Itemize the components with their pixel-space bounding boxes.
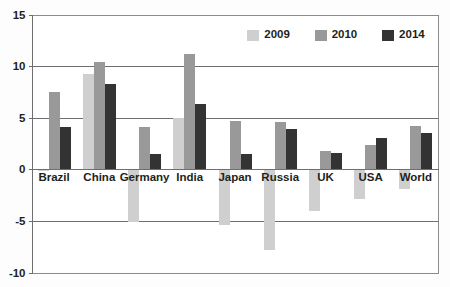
- category-label-russia: Russia: [261, 171, 299, 183]
- bar-japan-2010: [230, 121, 241, 170]
- bar-germany-2014: [150, 154, 161, 169]
- y-tick-label--5: -5: [15, 215, 26, 227]
- bar-russia-2010: [275, 122, 286, 169]
- legend-entry-2009[interactable]: 2009: [247, 28, 290, 40]
- chart-canvas: -10-5051015 BrazilChinaGermanyIndiaJapan…: [0, 0, 450, 287]
- bar-chart-figure: -10-5051015 BrazilChinaGermanyIndiaJapan…: [0, 0, 450, 287]
- y-tick-label-0: 0: [19, 163, 25, 175]
- y-tick-label-15: 15: [13, 9, 26, 21]
- bar-japan-2014: [241, 154, 252, 169]
- bar-india-2009: [173, 118, 184, 170]
- chart-legend: 200920102014: [247, 28, 425, 40]
- bar-usa-2010: [365, 145, 376, 170]
- bar-uk-2014: [331, 153, 342, 170]
- bar-world-2010: [410, 126, 421, 169]
- legend-swatch-2010: [315, 30, 327, 41]
- legend-label-2010: 2010: [332, 28, 358, 40]
- y-tick-label-5: 5: [19, 112, 26, 124]
- bar-china-2010: [94, 62, 105, 169]
- legend-label-2014: 2014: [399, 28, 425, 40]
- y-tick-label--10: -10: [9, 267, 26, 279]
- bar-germany-2010: [139, 127, 150, 169]
- bar-uk-2010: [320, 151, 331, 170]
- category-label-world: World: [400, 171, 432, 183]
- bar-india-2010: [184, 54, 195, 170]
- category-label-brazil: Brazil: [38, 171, 69, 183]
- legend-swatch-2009: [247, 30, 259, 41]
- category-label-india: India: [176, 171, 203, 183]
- bar-world-2014: [421, 133, 432, 169]
- bar-china-2009: [83, 74, 94, 169]
- legend-entry-2014[interactable]: 2014: [382, 28, 425, 40]
- category-label-germany: Germany: [120, 171, 170, 183]
- category-label-japan: Japan: [218, 171, 251, 183]
- bar-usa-2014: [376, 138, 387, 169]
- category-label-china: China: [83, 171, 116, 183]
- legend-label-2009: 2009: [264, 28, 290, 40]
- category-labels: BrazilChinaGermanyIndiaJapanRussiaUKUSAW…: [38, 171, 432, 183]
- bar-russia-2014: [286, 129, 297, 169]
- y-tick-label-10: 10: [13, 60, 26, 72]
- bar-india-2014: [195, 104, 206, 169]
- category-label-usa: USA: [359, 171, 383, 183]
- legend-entry-2010[interactable]: 2010: [315, 28, 358, 40]
- category-label-uk: UK: [317, 171, 334, 183]
- legend-swatch-2014: [382, 30, 394, 41]
- bar-brazil-2010: [49, 92, 60, 169]
- y-axis: [29, 16, 33, 274]
- bar-brazil-2014: [60, 127, 71, 169]
- bar-china-2014: [105, 84, 116, 170]
- y-tick-labels: -10-5051015: [9, 9, 26, 279]
